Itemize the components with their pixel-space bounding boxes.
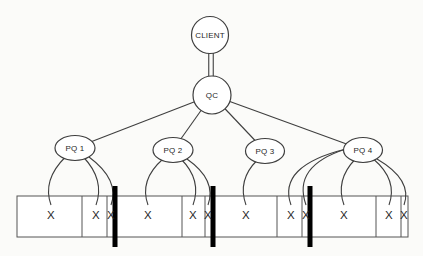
queue-topology-diagram: CLIENTQCPQ 1PQ 2PQ 3PQ 4 XXXXXXXXXXXX [0, 0, 423, 256]
node-label-client: CLIENT [195, 31, 225, 40]
node-label-pq4: PQ 4 [353, 146, 372, 155]
edge-qc-pq4 [212, 95, 363, 150]
x-mark-m7: X [242, 209, 250, 221]
x-mark-m6: X [204, 209, 212, 221]
node-label-pq2: PQ 2 [163, 146, 182, 155]
x-mark-m12: X [400, 209, 408, 221]
x-mark-m1: X [47, 209, 55, 221]
nodes: CLIENTQCPQ 1PQ 2PQ 3PQ 4 [55, 17, 383, 164]
node-label-qc: QC [206, 91, 218, 100]
x-mark-m3: X [107, 209, 115, 221]
x-mark-m5: X [189, 209, 197, 221]
edge-qc-pq1 [75, 95, 212, 148]
x-mark-m8: X [287, 209, 295, 221]
x-mark-m9: X [302, 209, 310, 221]
node-label-pq1: PQ 1 [65, 144, 84, 153]
x-mark-m10: X [340, 209, 348, 221]
node-label-pq3: PQ 3 [255, 147, 274, 156]
x-mark-m11: X [385, 209, 393, 221]
figure-stage: CLIENTQCPQ 1PQ 2PQ 3PQ 4 XXXXXXXXXXXX [0, 0, 423, 256]
x-mark-m4: X [144, 209, 152, 221]
x-mark-m2: X [92, 209, 100, 221]
